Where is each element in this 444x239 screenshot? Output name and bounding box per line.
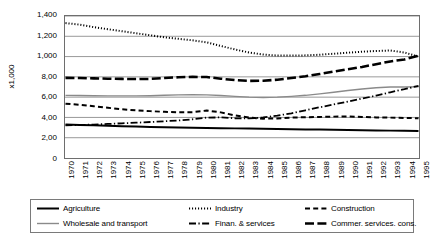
legend-item[interactable]: Construction [305,204,421,213]
x-axis-tick: 1972 [96,161,104,179]
dashed-line-swatch [305,204,327,213]
legend-item-label: Commer. services. cons. [331,219,416,228]
x-axis-tick: 1970 [68,161,76,179]
dotted-line-swatch [189,204,211,213]
x-axis-tick: 1987 [309,161,317,179]
x-axis-tick: 1975 [139,161,147,179]
x-axis-tick: 1990 [352,161,360,179]
solid-gray-line-swatch [37,219,59,228]
series-line [65,56,418,81]
y-axis-tick: 1,400 [37,11,57,19]
legend-item-label: Construction [331,204,375,213]
legend-item[interactable]: Commer. services. cons. [305,219,421,228]
chart-figure: x1,000 1,4001,2001,0008,006,004,002,000 … [0,0,444,239]
y-axis-tick: 8,00 [41,73,57,81]
x-axis-tick: 1991 [366,161,374,179]
series-line [65,86,418,126]
x-axis-tick: 1985 [281,161,289,179]
plot-area [64,15,420,159]
x-axis-tick: 1986 [295,161,303,179]
legend-item-label: Agriculture [63,204,100,213]
x-axis-tick: 1988 [323,161,331,179]
legend-item[interactable]: Industry [189,204,305,213]
x-axis-tick: 1982 [238,161,246,179]
x-axis-tick: 1974 [125,161,133,179]
x-axis-tick: 1971 [82,161,90,179]
series-line [65,104,418,119]
x-axis-tick: 1993 [394,161,402,179]
y-axis-tick-labels: 1,4001,2001,0008,006,004,002,000 [0,15,62,159]
x-axis-tick: 1992 [380,161,388,179]
legend-item[interactable]: Finan. & services [189,219,305,228]
x-axis-tick: 1976 [153,161,161,179]
series-line [65,23,418,56]
dashdot-line-swatch [189,219,211,228]
legend-item[interactable]: Agriculture [37,204,189,213]
solid-black-line-swatch [37,204,59,213]
x-axis-tick: 1979 [196,161,204,179]
y-axis-tick: 1,200 [37,32,57,40]
series-lines [65,16,419,158]
x-axis-tick: 1984 [267,161,275,179]
x-axis-tick: 1978 [181,161,189,179]
y-axis-tick: 1,000 [37,52,57,60]
legend-item[interactable]: Wholesale and transport [37,219,189,228]
legend-item-label: Wholesale and transport [63,219,147,228]
legend-item-label: Industry [215,204,243,213]
x-axis-tick: 1989 [338,161,346,179]
x-axis-tick: 1983 [252,161,260,179]
y-axis-tick: 2,00 [41,134,57,142]
x-axis-tick: 1973 [110,161,118,179]
longdash-line-swatch [305,219,327,228]
y-axis-tick: 6,00 [41,93,57,101]
chart-legend: AgricultureIndustryConstructionWholesale… [30,199,414,233]
x-axis-tick-labels: 1970197119721973197419751976197719781979… [64,161,420,195]
x-axis-tick: 1977 [167,161,175,179]
x-axis-tick: 1994 [409,161,417,179]
series-line [65,125,418,131]
x-axis-tick: 1980 [210,161,218,179]
legend-item-label: Finan. & services [215,219,275,228]
x-axis-tick: 1995 [423,161,431,179]
y-axis-tick: 4,00 [41,114,57,122]
series-line [65,87,418,98]
y-axis-tick: 0 [53,155,57,163]
x-axis-tick: 1981 [224,161,232,179]
